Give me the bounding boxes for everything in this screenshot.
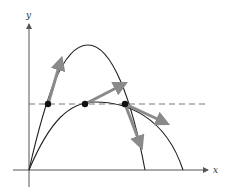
- x-axis-label: x: [213, 165, 218, 175]
- intersection-point: [122, 101, 128, 107]
- y-axis-label: y: [25, 10, 32, 20]
- wide-trajectory-curve: [29, 102, 183, 170]
- intersection-point: [82, 101, 88, 107]
- velocity-arrow-icon: [85, 84, 124, 104]
- intersection-point: [45, 101, 51, 107]
- velocity-arrow-icon: [48, 60, 61, 104]
- projectile-diagram: y x: [0, 0, 225, 196]
